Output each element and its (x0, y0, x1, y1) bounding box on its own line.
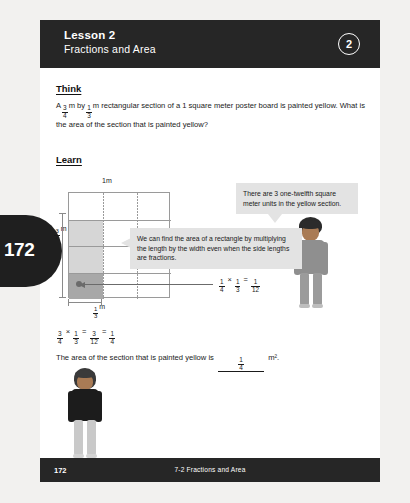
think-text-part3: m rectangular section of a 1 square mete… (56, 101, 365, 129)
answer-prefix: The area of the section that is painted … (56, 353, 214, 362)
eq-right-operand-b: 13 (235, 279, 241, 293)
page-footer: 172 7-2 Fractions and Area (40, 458, 380, 482)
eq-right-result: 112 (251, 279, 260, 293)
boy-hair-front-icon (300, 220, 321, 229)
girl-leg-right (87, 420, 96, 456)
callout-arrow (80, 284, 213, 285)
boy-leg-right (313, 273, 322, 306)
footer-lesson-title: 7-2 Fractions and Area (40, 466, 380, 473)
dimension-line-left (62, 213, 63, 298)
boy-leg-left (300, 273, 309, 306)
dimension-line-bottom (68, 302, 102, 303)
answer-blank-field[interactable]: 14 (218, 353, 264, 372)
main-eq-equals-1: = (82, 327, 86, 336)
boy-shoe-right (312, 304, 323, 308)
main-eq-operand-a: 34 (57, 331, 63, 345)
think-fraction-three-fourths: 34 (62, 105, 68, 119)
eq-right-equals: = (244, 275, 248, 284)
girl-hair-front-icon (75, 370, 95, 378)
dimension-tick-left-top (59, 213, 66, 214)
callout-bubble-top: There are 3 one-twelfth square meter uni… (236, 183, 358, 214)
grid-left-fraction: 34 (54, 229, 59, 242)
shaded-cell-r4c1 (69, 273, 103, 300)
girl-leg-left (74, 420, 83, 456)
textbook-page: Lesson 2 Fractions and Area 2 172 Think … (40, 20, 380, 482)
grid-label-top: 1m (102, 177, 112, 184)
think-text-part2: m by (69, 101, 85, 110)
grid-bottom-fraction: 13 (93, 307, 98, 320)
girl-arm-left (68, 391, 75, 422)
main-eq-equals-2: = (102, 327, 106, 336)
dimension-tick-bottom-left (68, 299, 69, 306)
answer-fraction: 14 (238, 357, 244, 371)
main-eq-operand-b: 13 (73, 331, 79, 345)
page-tab-number: 172 (4, 239, 34, 261)
main-eq-times: × (66, 327, 70, 336)
grid-hline-3 (69, 273, 171, 274)
main-eq-result-d: 14 (109, 331, 115, 345)
eq-right-times: × (228, 275, 232, 284)
boy-arm-right (321, 242, 328, 275)
think-heading: Think (56, 83, 81, 94)
think-fraction-one-third: 13 (86, 105, 92, 119)
eq-right-operand-a: 14 (219, 279, 225, 293)
answer-suffix: m². (268, 353, 279, 362)
girl-arm-right (95, 391, 102, 422)
grid-label-left: 34m (53, 225, 67, 242)
lesson-title: Fractions and Area (64, 43, 156, 55)
dimension-tick-left-bottom (59, 297, 66, 298)
grid-hline-1 (69, 220, 171, 221)
unit-fraction-equation: 14 × 13 = 112 (218, 275, 261, 293)
main-equation: 34 × 13 = 312 = 14 (56, 327, 116, 345)
character-girl (62, 368, 108, 460)
think-problem-text: A34m by13m rectangular section of a 1 sq… (56, 100, 366, 131)
lesson-label: Lesson 2 (64, 29, 115, 41)
dimension-tick-bottom-right (101, 299, 102, 306)
callout-bubble-bottom: We can find the area of a rectangle by m… (130, 228, 302, 269)
shaded-cell-r2c1 (69, 220, 103, 247)
lesson-number-badge: 2 (338, 33, 360, 55)
main-eq-result-c: 312 (90, 331, 99, 345)
shaded-cell-r3c1 (69, 246, 103, 273)
lesson-header: Lesson 2 Fractions and Area 2 (40, 20, 380, 68)
think-text-part1: A (56, 101, 61, 110)
boy-shoe-left (299, 304, 310, 308)
grid-label-bottom: 13m (92, 303, 105, 320)
learn-heading: Learn (56, 154, 82, 165)
